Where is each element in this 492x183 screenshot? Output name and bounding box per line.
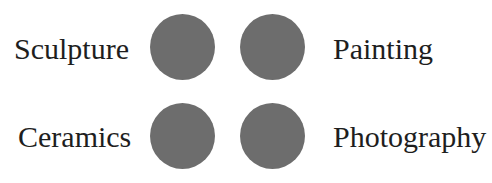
- label-photography: Photography: [333, 122, 486, 152]
- label-sculpture: Sculpture: [14, 34, 129, 64]
- circle-photography: [240, 103, 305, 169]
- circle-painting: [240, 14, 305, 80]
- label-painting: Painting: [333, 34, 433, 64]
- circle-ceramics: [150, 103, 215, 169]
- label-ceramics: Ceramics: [18, 122, 131, 152]
- circle-sculpture: [150, 14, 215, 80]
